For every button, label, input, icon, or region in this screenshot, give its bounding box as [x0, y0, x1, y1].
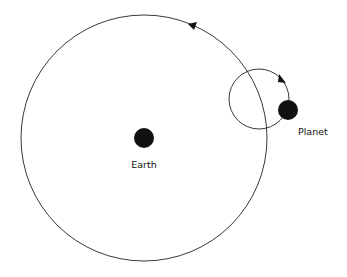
epicycle-diagram: Earth Planet	[0, 0, 347, 277]
epicycle-arrow-icon	[278, 74, 286, 83]
earth-body	[134, 128, 154, 148]
earth-label: Earth	[131, 159, 156, 170]
planet-body	[278, 100, 298, 120]
planet-label: Planet	[298, 126, 328, 137]
